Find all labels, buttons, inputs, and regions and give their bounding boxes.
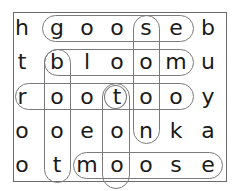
letter-cell[interactable]: o xyxy=(42,114,72,148)
letter-cell[interactable]: a xyxy=(193,114,223,148)
letter-cell[interactable]: s xyxy=(131,11,161,45)
letter-cell[interactable]: o xyxy=(102,148,132,182)
letter-cell[interactable]: t xyxy=(102,80,132,114)
letter-cell[interactable]: y xyxy=(193,80,223,114)
letter-cell[interactable]: o xyxy=(72,80,102,114)
letter-cell[interactable]: t xyxy=(42,148,72,182)
letter-cell[interactable]: b xyxy=(193,11,223,45)
letter-cell[interactable]: k xyxy=(161,114,191,148)
letter-cell[interactable]: o xyxy=(42,80,72,114)
letter-cell[interactable]: o xyxy=(7,114,37,148)
letter-cell[interactable]: o xyxy=(102,114,132,148)
letter-cell[interactable]: o xyxy=(72,11,102,45)
letter-cell[interactable]: e xyxy=(161,11,191,45)
letter-cell[interactable]: s xyxy=(161,148,191,182)
letter-cell[interactable]: g xyxy=(42,11,72,45)
letter-cell[interactable]: o xyxy=(102,11,132,45)
letter-cell[interactable]: h xyxy=(7,11,37,45)
letter-cell[interactable]: l xyxy=(72,45,102,79)
letter-cell[interactable]: o xyxy=(131,45,161,79)
letter-cell[interactable]: o xyxy=(102,45,132,79)
letter-cell[interactable]: e xyxy=(72,114,102,148)
letter-cell[interactable]: o xyxy=(161,80,191,114)
letter-cell[interactable]: m xyxy=(72,148,102,182)
letter-cell[interactable]: o xyxy=(7,148,37,182)
letter-cell[interactable]: o xyxy=(131,148,161,182)
letter-cell[interactable]: r xyxy=(7,80,37,114)
letter-cell[interactable]: e xyxy=(193,148,223,182)
letter-cell[interactable]: t xyxy=(7,45,37,79)
letter-cell[interactable]: o xyxy=(131,80,161,114)
letter-cell[interactable]: u xyxy=(193,45,223,79)
letter-cell[interactable]: b xyxy=(42,45,72,79)
letter-cell[interactable]: n xyxy=(131,114,161,148)
letter-cell[interactable]: m xyxy=(161,45,191,79)
